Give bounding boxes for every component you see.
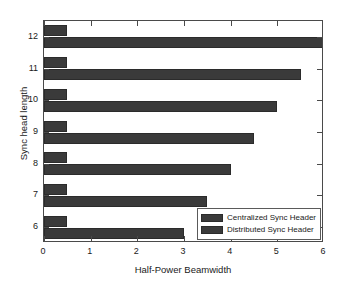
bar-distributed [44, 196, 207, 207]
legend-label-centralized: Centralized Sync Header [227, 213, 316, 223]
legend-swatch-distributed [201, 226, 223, 234]
y-tick-mark [44, 69, 49, 70]
y-tick-mark [44, 100, 49, 101]
bar-centralized [44, 25, 67, 36]
y-tick-mark [44, 227, 49, 228]
y-tick-label: 6 [18, 221, 38, 231]
bar-distributed [44, 133, 254, 144]
bar-distributed [44, 228, 184, 239]
y-tick-mark [317, 100, 322, 101]
plot-area: Centralized Sync Header Distributed Sync… [43, 20, 323, 242]
x-tick-label: 0 [40, 246, 45, 256]
legend-item-distributed: Distributed Sync Header [201, 224, 316, 236]
x-tick-label: 5 [274, 246, 279, 256]
bar-distributed [44, 37, 323, 48]
legend-label-distributed: Distributed Sync Header [227, 225, 314, 235]
x-tick-mark [91, 236, 92, 241]
x-tick-mark [277, 21, 278, 26]
x-tick-mark [44, 21, 45, 26]
y-tick-mark [44, 164, 49, 165]
x-axis-title: Half-Power Beamwidth [43, 264, 323, 275]
x-tick-mark [44, 236, 45, 241]
bar-centralized [44, 152, 67, 163]
y-tick-mark [44, 37, 49, 38]
x-tick-mark [184, 21, 185, 26]
bar-centralized [44, 89, 67, 100]
bar-centralized [44, 57, 67, 68]
x-tick-label: 1 [87, 246, 92, 256]
bar-distributed [44, 69, 301, 80]
x-tick-mark [184, 236, 185, 241]
legend-item-centralized: Centralized Sync Header [201, 212, 316, 224]
chart-legend: Centralized Sync Header Distributed Sync… [197, 208, 321, 240]
bar-distributed [44, 164, 231, 175]
bar-centralized [44, 121, 67, 132]
y-tick-mark [317, 164, 322, 165]
y-tick-label: 12 [18, 31, 38, 41]
x-tick-label: 6 [320, 246, 325, 256]
x-tick-mark [91, 21, 92, 26]
x-tick-mark [137, 236, 138, 241]
y-tick-mark [317, 69, 322, 70]
y-tick-mark [44, 132, 49, 133]
y-tick-mark [44, 195, 49, 196]
bar-distributed [44, 101, 277, 112]
x-tick-mark [137, 21, 138, 26]
x-tick-label: 3 [180, 246, 185, 256]
y-tick-mark [317, 132, 322, 133]
y-tick-mark [317, 195, 322, 196]
chart-figure: Centralized Sync Header Distributed Sync… [0, 0, 344, 285]
y-tick-mark [317, 37, 322, 38]
bar-centralized [44, 216, 67, 227]
bar-centralized [44, 184, 67, 195]
x-tick-label: 2 [134, 246, 139, 256]
x-tick-label: 4 [227, 246, 232, 256]
y-axis-title: Sync head length [18, 54, 29, 194]
legend-swatch-centralized [201, 214, 223, 222]
x-tick-mark [231, 21, 232, 26]
